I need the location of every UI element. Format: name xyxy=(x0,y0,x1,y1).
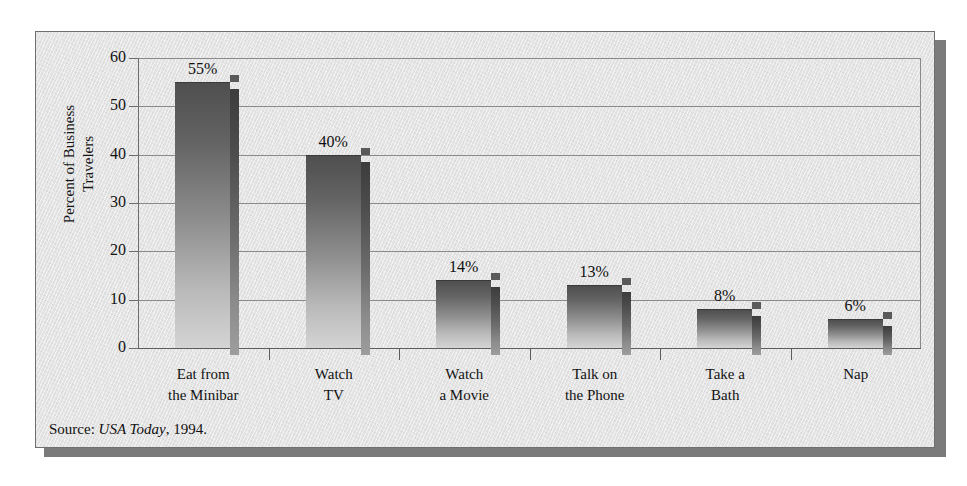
gridline xyxy=(138,300,921,301)
source-prefix: Source: xyxy=(49,421,99,437)
bar-value-label: 55% xyxy=(175,60,230,78)
bar-front-face xyxy=(306,155,361,348)
y-tick-mark xyxy=(129,300,138,301)
bar: 40% xyxy=(306,155,361,348)
figure-frame: Percent of Business Travelers 0102030405… xyxy=(35,31,935,448)
x-axis-divider xyxy=(791,349,792,360)
y-tick-label: 60 xyxy=(110,48,126,66)
bar-top-face xyxy=(883,312,892,319)
bar-front-face xyxy=(175,82,230,348)
y-tick-label: 50 xyxy=(110,96,126,114)
bar-value-label: 6% xyxy=(828,297,883,315)
x-axis-divider xyxy=(399,349,400,360)
bar-side-face xyxy=(883,326,892,355)
gridline xyxy=(138,251,921,252)
y-tick-label: 0 xyxy=(118,338,126,356)
x-axis-divider xyxy=(269,349,270,360)
x-category-label: Eat from the Minibar xyxy=(138,364,269,406)
bar: 55% xyxy=(175,82,230,348)
bar-front-face xyxy=(828,319,883,348)
y-axis-title: Percent of Business Travelers xyxy=(60,54,100,274)
y-tick-mark xyxy=(129,251,138,252)
bar: 13% xyxy=(567,285,622,348)
bar-top-face xyxy=(361,148,370,155)
bar-top-face xyxy=(491,273,500,280)
gridline xyxy=(138,155,921,156)
gridline xyxy=(138,58,921,59)
y-tick-label: 30 xyxy=(110,193,126,211)
x-category-label: Take a Bath xyxy=(660,364,791,406)
source-note: Source: USA Today, 1994. xyxy=(49,421,207,438)
bar-top-face xyxy=(230,75,239,82)
y-axis-line xyxy=(138,58,139,348)
bar-front-face xyxy=(697,309,752,348)
bar: 6% xyxy=(828,319,883,348)
x-category-label: Talk on the Phone xyxy=(530,364,661,406)
bar-side-face xyxy=(230,89,239,355)
bar: 14% xyxy=(436,280,491,348)
source-publication: USA Today xyxy=(99,421,166,437)
bar-top-face xyxy=(752,302,761,309)
y-tick-label: 40 xyxy=(110,145,126,163)
y-tick-label: 10 xyxy=(110,290,126,308)
bar-value-label: 40% xyxy=(306,133,361,151)
gridline xyxy=(138,203,921,204)
plot-area: 0102030405060 55%40%14%13%8%6% Eat from … xyxy=(138,58,921,348)
figure-root: Percent of Business Travelers 0102030405… xyxy=(0,0,967,486)
bar: 8% xyxy=(697,309,752,348)
x-axis-divider xyxy=(660,349,661,360)
bar-value-label: 14% xyxy=(436,258,491,276)
bar-side-face xyxy=(752,316,761,355)
gridline xyxy=(138,106,921,107)
y-tick-mark xyxy=(129,106,138,107)
x-axis-divider xyxy=(530,349,531,360)
bar-front-face xyxy=(436,280,491,348)
x-category-label: Watch a Movie xyxy=(399,364,530,406)
x-category-label: Watch TV xyxy=(269,364,400,406)
y-tick-label: 20 xyxy=(110,241,126,259)
y-tick-mark xyxy=(129,348,138,349)
y-tick-mark xyxy=(129,58,138,59)
x-category-label: Nap xyxy=(791,364,922,385)
bar-side-face xyxy=(622,292,631,355)
bar-value-label: 8% xyxy=(697,287,752,305)
bar-front-face xyxy=(567,285,622,348)
y-tick-mark xyxy=(129,155,138,156)
bar-side-face xyxy=(361,162,370,355)
bar-top-face xyxy=(622,278,631,285)
plot-right-border xyxy=(920,58,921,348)
source-suffix: , 1994. xyxy=(166,421,207,437)
bar-value-label: 13% xyxy=(567,263,622,281)
bar-side-face xyxy=(491,287,500,355)
y-tick-mark xyxy=(129,203,138,204)
